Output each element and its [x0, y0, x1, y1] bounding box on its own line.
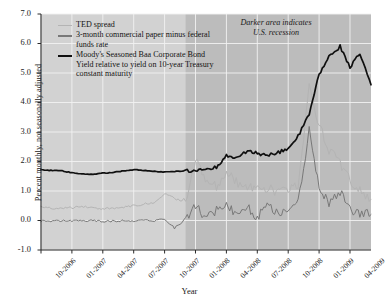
y-axis-title: Percent monthly, not seasonally adjusted [34, 33, 43, 233]
legend-swatch-moodys-baa [58, 55, 72, 57]
legend-item-moodys-baa: Moody's Seasoned Baa Corporate Bond Yiel… [58, 50, 218, 78]
y-tick-label: 2.0 [7, 156, 31, 165]
legend-swatch-ted-spread [58, 25, 72, 26]
recession-annotation-line2: U.S. recession [253, 28, 299, 37]
legend-swatch-commercial-paper [58, 35, 72, 37]
x-axis-title: Year [0, 286, 379, 296]
y-tick-label: 6.0 [7, 38, 31, 47]
y-tick-label: 4.0 [7, 97, 31, 106]
legend-label-commercial-paper: 3-month commercial paper minus federal f… [76, 30, 218, 49]
y-tick-label: -1.0 [7, 245, 31, 254]
y-tick-label: 0.0 [7, 215, 31, 224]
y-tick-label: 3.0 [7, 127, 31, 136]
y-tick-label: 7.0 [7, 9, 31, 18]
recession-annotation: Darker area indicates U.S. recession [212, 18, 340, 37]
legend-label-ted-spread: TED spread [76, 20, 115, 29]
legend-item-ted-spread: TED spread [58, 20, 218, 29]
legend-item-commercial-paper: 3-month commercial paper minus federal f… [58, 30, 218, 49]
legend-label-moodys-baa: Moody's Seasoned Baa Corporate Bond Yiel… [76, 50, 218, 78]
y-tick-label: 5.0 [7, 68, 31, 77]
chart-legend: TED spread 3-month commercial paper minu… [58, 20, 218, 79]
y-tick-label: 1.0 [7, 186, 31, 195]
recession-annotation-line1: Darker area indicates [240, 18, 311, 27]
